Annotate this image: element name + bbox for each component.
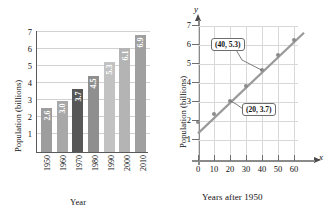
line-xtick-mark-50 [278, 155, 279, 161]
bar-chart-panel: Population (billions) 7 6 5 4 3 2 1 2.6 … [0, 0, 165, 222]
line-ytick-5: 5 [179, 58, 191, 68]
bar-chart-plot-area: 2.6 3.0 3.7 4.5 5.3 6.1 6.9 [36, 31, 148, 153]
line-xtick-50: 50 [270, 164, 286, 174]
y-axis-letter: y [194, 4, 198, 14]
bar-ytick-1: 1 [22, 129, 32, 139]
bar-ytick-2: 2 [22, 112, 32, 122]
line-ytick-mark-3 [192, 101, 199, 102]
line-xtick-20: 20 [222, 164, 238, 174]
bar-1950: 2.6 [41, 108, 52, 152]
figure-container: Population (billions) 7 6 5 4 3 2 1 2.6 … [0, 0, 325, 222]
line-xtick-0: 0 [190, 164, 206, 174]
line-xtick-mark-20 [230, 155, 231, 161]
line-xtick-30: 30 [238, 164, 254, 174]
line-ytick-mark-6 [192, 44, 199, 45]
line-ytick-mark-2 [192, 120, 199, 121]
line-ytick-4: 4 [179, 77, 191, 87]
line-chart-x-axis-title: Years after 1950 [202, 192, 263, 202]
bar-ytick-4: 4 [22, 78, 32, 88]
line-xtick-10: 10 [206, 164, 222, 174]
line-xtick-mark-40 [262, 155, 263, 161]
line-ytick-mark-1 [192, 139, 199, 140]
bar-ytick-6: 6 [22, 44, 32, 54]
line-chart-panel: Population (billions) y x [165, 0, 325, 222]
bar-1960: 3.0 [57, 101, 68, 152]
annotation-callout-20: (20, 3.7) [242, 103, 276, 116]
bar-xtick-2010: 2010 [139, 155, 148, 171]
line-ytick-mark-7 [192, 25, 199, 26]
bar-1990: 5.3 [104, 62, 115, 152]
bar-value-1980: 4.5 [89, 79, 98, 89]
line-xtick-60: 60 [286, 164, 302, 174]
line-ytick-3: 3 [179, 96, 191, 106]
line-xtick-mark-30 [246, 155, 247, 161]
bar-xtick-1950: 1950 [43, 155, 52, 171]
line-chart-plot-area: (40, 5.3) (20, 3.7) [198, 26, 298, 161]
x-axis-arrow-icon [314, 157, 321, 163]
bar-ytick-3: 3 [22, 95, 32, 105]
annotation-callout-40: (40, 5.3) [211, 38, 245, 51]
bar-xtick-1980: 1980 [91, 155, 100, 171]
bar-ytick-7: 7 [22, 27, 32, 37]
bar-value-2010: 6.9 [136, 38, 145, 48]
bar-xtick-1990: 1990 [107, 155, 116, 171]
line-xtick-mark-60 [294, 155, 295, 161]
line-ytick-6: 6 [179, 39, 191, 49]
line-ytick-mark-5 [192, 63, 199, 64]
bar-value-1990: 5.3 [105, 65, 114, 75]
bar-xtick-1960: 1960 [59, 155, 68, 171]
line-xtick-40: 40 [254, 164, 270, 174]
line-xtick-mark-0 [198, 155, 199, 161]
line-ytick-1: 1 [179, 134, 191, 144]
bar-xtick-1970: 1970 [75, 155, 84, 171]
bar-2000: 6.1 [119, 48, 130, 152]
bar-1980: 4.5 [88, 76, 99, 152]
line-ytick-2: 2 [179, 115, 191, 125]
leader-line-40 [235, 48, 262, 70]
bar-series: 2.6 3.0 3.7 4.5 5.3 6.1 6.9 [38, 31, 148, 152]
bar-2010: 6.9 [135, 35, 146, 152]
bar-x-tick-labels: 1950 1960 1970 1980 1990 2000 2010 [37, 155, 149, 189]
line-ytick-7: 7 [179, 20, 191, 30]
line-xtick-mark-10 [214, 155, 215, 161]
bar-xtick-2000: 2000 [123, 155, 132, 171]
line-ytick-mark-4 [192, 82, 199, 83]
bar-ytick-5: 5 [22, 61, 32, 71]
bar-value-1950: 2.6 [42, 111, 51, 121]
bar-value-1970: 3.7 [73, 92, 82, 102]
bar-value-1960: 3.0 [58, 104, 67, 114]
bar-value-2000: 6.1 [120, 51, 129, 61]
bar-chart-x-axis-title: Year [70, 197, 86, 207]
bar-1970: 3.7 [72, 89, 83, 152]
